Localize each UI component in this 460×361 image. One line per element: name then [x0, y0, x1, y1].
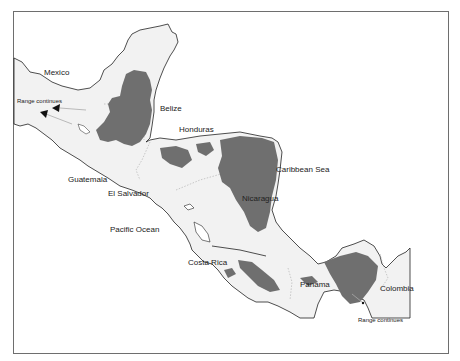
label-panama: Panama — [300, 281, 330, 289]
label-nicaragua: Nicaragua — [242, 195, 278, 203]
label-belize: Belize — [160, 105, 182, 113]
label-colombia: Colombia — [380, 285, 414, 293]
label-caribbean-sea: Caribbean Sea — [276, 166, 329, 174]
label-el-salvador: El Salvador — [108, 190, 149, 198]
label-honduras: Honduras — [179, 126, 214, 134]
label-mexico: Mexico — [44, 69, 69, 77]
label-guatemala: Guatemala — [68, 176, 107, 184]
label-costa-rica: Costa Rica — [188, 259, 227, 267]
label-range-continues-south: Range continues — [358, 317, 403, 323]
label-range-continues-west: Range continues — [17, 98, 62, 104]
label-pacific-ocean: Pacific Ocean — [110, 226, 159, 234]
